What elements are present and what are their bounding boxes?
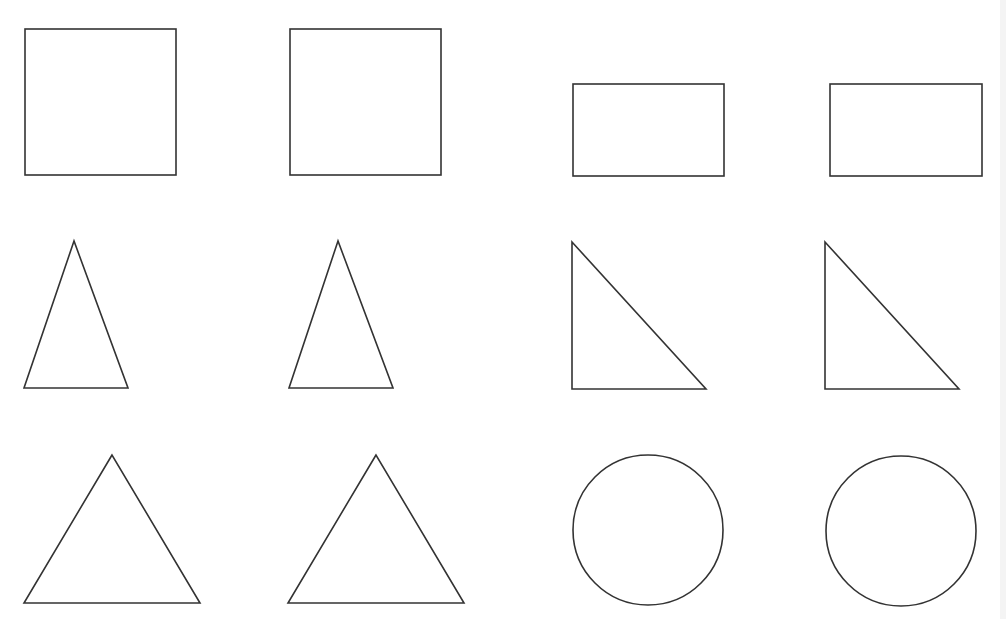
narrow-triangle-1	[24, 241, 128, 388]
equilateral-triangle-2	[288, 455, 464, 603]
circle-1	[573, 455, 723, 605]
square-2	[290, 29, 441, 175]
circle-2	[826, 456, 976, 606]
shapes-canvas	[0, 0, 1006, 619]
right-edge-strip	[1000, 0, 1006, 619]
rectangle-2	[830, 84, 982, 176]
right-triangle-1	[572, 242, 706, 389]
equilateral-triangle-1	[24, 455, 200, 603]
right-triangle-2	[825, 242, 959, 389]
narrow-triangle-2	[289, 241, 393, 388]
square-1	[25, 29, 176, 175]
rectangle-1	[573, 84, 724, 176]
